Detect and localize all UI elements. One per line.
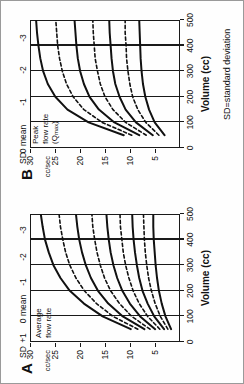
panel-b-tick-x-300: [180, 70, 184, 71]
panel-a-xtick-200: 200: [185, 284, 195, 298]
panel-b-xtick-100: 100: [185, 115, 195, 129]
figure-page: A 30 cc/sec 25 20 15 10 5 Average: [0, 0, 244, 384]
panel-a-tick-y-20: [80, 343, 81, 347]
panel-a-xtick-400: 400: [185, 233, 195, 247]
panel-b-ytick-5: 5: [150, 156, 160, 186]
panel-b-ytick-15: 15: [100, 156, 110, 186]
panel-b-sd-header: SD: [18, 152, 28, 164]
panel-b-tick-y-5: [155, 149, 156, 153]
panel-b-curves: [30, 20, 180, 148]
panel-a-xtick-0: 0: [185, 340, 195, 345]
panel-b-tick-x-100: [180, 121, 184, 122]
panel-b-tick-y-10: [130, 149, 131, 153]
curve-A-0-mean: [76, 214, 144, 329]
panel-b-xtick-400: 400: [185, 39, 195, 53]
panel-b-x-axis-title: Volume (cc): [200, 56, 211, 112]
panel-a-x-axis-title: Volume (cc): [200, 250, 211, 306]
panel-a-tick-y-25: [55, 343, 56, 347]
panel-b-xtick-0: 0: [185, 146, 195, 151]
panel-b-sd-label-minus2: -2: [18, 66, 28, 74]
panel-a-tick-x-300: [180, 264, 184, 265]
panel-b-sd-label-0mean: 0 mean: [18, 125, 28, 153]
curve-A--3-sd: [153, 214, 171, 329]
panel-b-plot: [30, 20, 180, 148]
panel-a-xtick-300: 300: [185, 258, 195, 272]
panel-a-tick-x-100: [180, 315, 184, 316]
panel-a-sd-label-minus2: -2: [18, 253, 28, 261]
panel-a-xtick-500: 500: [185, 207, 195, 221]
panel-b-tick-y-25: [55, 149, 56, 153]
panel-a: A 30 cc/sec 25 20 15 10 5 Average: [0, 196, 244, 382]
panel-a-ytick-25: 25: [50, 350, 60, 380]
panel-a-curves-svg: [30, 214, 180, 342]
panel-a-sd-label-minus1: -1: [18, 278, 28, 286]
panel-a-ytick-5: 5: [150, 350, 160, 380]
panel-b-tick-y-15: [105, 149, 106, 153]
panel-b-tick-x-0: [180, 147, 184, 148]
panel-b-tick-y-30: [30, 149, 31, 153]
panel-a-sd-label-minus3: -3: [18, 226, 28, 234]
panel-b-tick-x-400: [180, 44, 184, 45]
panel-a-sd-header: SD: [18, 346, 28, 358]
panel-b-ytick-10: 10: [125, 156, 135, 186]
panel-b-curves-svg: [30, 20, 180, 148]
curve-B--2-sd: [109, 20, 153, 135]
panel-a-tick-x-500: [180, 213, 184, 214]
figure-canvas: A 30 cc/sec 25 20 15 10 5 Average: [0, 0, 244, 384]
panel-b-ytick-20: 20: [75, 156, 85, 186]
panel-a-tick-y-5: [155, 343, 156, 347]
curve-A--0-5-sd: [59, 214, 138, 329]
panel-a-ytick-15: 15: [100, 350, 110, 380]
panel-a-tick-y-30: [30, 343, 31, 347]
panel-b-xtick-200: 200: [185, 90, 195, 104]
panel-b-ytick-25: 25: [50, 156, 60, 186]
panel-a-curves: [30, 214, 180, 342]
panel-a-tick-x-200: [180, 290, 184, 291]
panel-a-tick-x-400: [180, 238, 184, 239]
panel-b: B 30 cc/sec 25 20 15 10 5 Peak flow rate: [0, 2, 244, 188]
figure-caption: SD=standard deviation: [222, 29, 232, 120]
panel-b-xtick-300: 300: [185, 64, 195, 78]
panel-b-tick-x-200: [180, 96, 184, 97]
panel-b-sd-label-minus3: -3: [18, 34, 28, 42]
panel-a-tick-x-0: [180, 341, 184, 342]
panel-a-plot: [30, 214, 180, 342]
panel-a-ytick-20: 20: [75, 350, 85, 380]
panel-b-xtick-500: 500: [185, 13, 195, 27]
panel-a-sd-label-plus1: +1: [18, 333, 28, 343]
panel-b-tick-x-500: [180, 19, 184, 20]
panel-b-tick-y-20: [80, 149, 81, 153]
panel-b-sd-label-minus1: -1: [18, 98, 28, 106]
rotated-figure-wrapper: A 30 cc/sec 25 20 15 10 5 Average: [0, 0, 244, 384]
panel-a-tick-y-15: [105, 343, 106, 347]
panel-a-xtick-100: 100: [185, 309, 195, 323]
panel-a-tick-y-10: [130, 343, 131, 347]
panel-a-ytick-10: 10: [125, 350, 135, 380]
panel-a-sd-label-0mean: 0 mean: [18, 295, 28, 323]
curve-B--1-5-sd: [93, 20, 146, 135]
